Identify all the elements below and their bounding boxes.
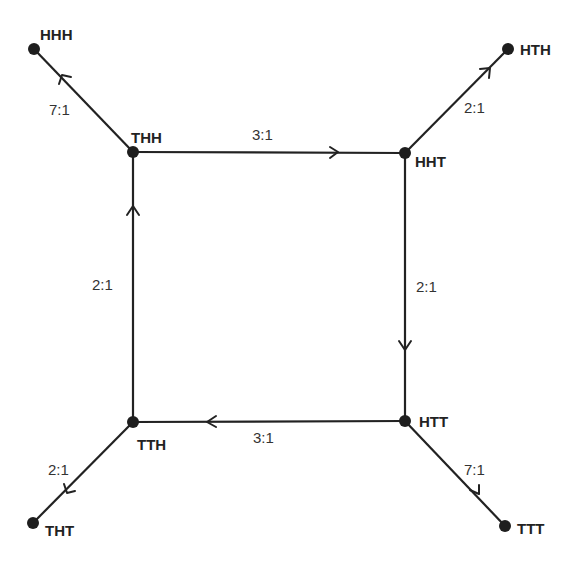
edge-label-htt-tth: 3:1 bbox=[253, 429, 274, 446]
node-label: THT bbox=[45, 522, 74, 539]
node-dot-icon bbox=[28, 43, 40, 55]
node-label: HHH bbox=[40, 26, 73, 43]
node-tht: THT bbox=[27, 517, 74, 539]
edge-thh-hht bbox=[133, 152, 405, 153]
node-label: THH bbox=[131, 129, 162, 146]
node-label: HTT bbox=[419, 413, 448, 430]
node-label: HHT bbox=[415, 153, 446, 170]
node-hth: HTH bbox=[502, 41, 551, 58]
edge-label-htt-ttt: 7:1 bbox=[464, 461, 485, 478]
node-label: TTT bbox=[517, 520, 545, 537]
node-dot-icon bbox=[502, 43, 514, 55]
node-dot-icon bbox=[399, 415, 411, 427]
node-label: TTH bbox=[137, 436, 166, 453]
node-dot-icon bbox=[399, 147, 411, 159]
node-thh: THH bbox=[127, 129, 162, 158]
edge-label-thh-hht: 3:1 bbox=[252, 126, 273, 143]
node-ttt: TTT bbox=[499, 520, 545, 537]
edge-hht-hth bbox=[405, 49, 508, 153]
edge-htt-tth bbox=[133, 421, 405, 422]
edge-label-tth-tht: 2:1 bbox=[48, 461, 69, 478]
edge-htt-ttt bbox=[405, 421, 505, 526]
node-dot-icon bbox=[127, 146, 139, 158]
edge-label-hht-hth: 2:1 bbox=[464, 99, 485, 116]
state-graph: HHH THH HHT HTH TTH HTT THT TTT 7:1 3:1 … bbox=[0, 0, 584, 561]
edge-label-thh-hhh: 7:1 bbox=[49, 101, 70, 118]
node-htt: HTT bbox=[399, 413, 448, 430]
node-hhh: HHH bbox=[28, 26, 73, 55]
node-dot-icon bbox=[499, 520, 511, 532]
node-label: HTH bbox=[520, 41, 551, 58]
node-dot-icon bbox=[127, 416, 139, 428]
edge-label-tth-thh: 2:1 bbox=[92, 276, 113, 293]
node-dot-icon bbox=[27, 517, 39, 529]
edge-label-hht-htt: 2:1 bbox=[416, 278, 437, 295]
